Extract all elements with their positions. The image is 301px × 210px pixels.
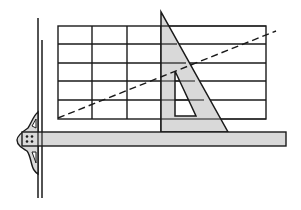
set-square[interactable] xyxy=(161,12,266,132)
t-square[interactable] xyxy=(17,112,286,174)
drafting-diagram xyxy=(0,0,301,210)
t-square-blade xyxy=(22,132,286,146)
